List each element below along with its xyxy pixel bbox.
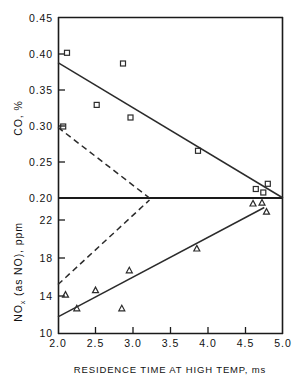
ylabel-020: 0.20 — [29, 192, 53, 204]
y-axis-title-lower-group: NOx (as NO), ppm — [12, 222, 26, 322]
ylabel-22: 22 — [40, 214, 53, 226]
ylabel-14: 14 — [40, 290, 53, 302]
ylabel-030: 0.30 — [29, 120, 53, 132]
ylabel-040: 0.40 — [29, 48, 53, 60]
ylabel-025: 0.25 — [29, 156, 53, 168]
chart-svg: 0.45 0.40 0.35 0.30 0.25 0.20 22 18 14 1… — [0, 0, 300, 384]
nox-main: NO — [12, 304, 24, 322]
xlabel-25: 2.5 — [87, 337, 104, 349]
xlabel-45: 4.5 — [237, 337, 254, 349]
xlabel-35: 3.5 — [162, 337, 179, 349]
y-axis-title-upper: CO, % — [12, 100, 24, 135]
ylabel-035: 0.35 — [29, 84, 53, 96]
nox-rest: (as NO), ppm — [12, 222, 24, 300]
xlabel-50: 5.0 — [274, 337, 291, 349]
xlabel-40: 4.0 — [199, 337, 216, 349]
y-axis-title-lower: NOx (as NO), ppm — [12, 222, 26, 322]
ylabel-045: 0.45 — [29, 12, 53, 24]
chart-figure: 0.45 0.40 0.35 0.30 0.25 0.20 22 18 14 1… — [0, 0, 300, 384]
xlabel-30: 3.0 — [124, 337, 141, 349]
x-axis-title: RESIDENCE TIME AT HIGH TEMP, ms — [74, 364, 266, 375]
ylabel-18: 18 — [40, 252, 53, 264]
xlabel-20: 2.0 — [49, 337, 66, 349]
